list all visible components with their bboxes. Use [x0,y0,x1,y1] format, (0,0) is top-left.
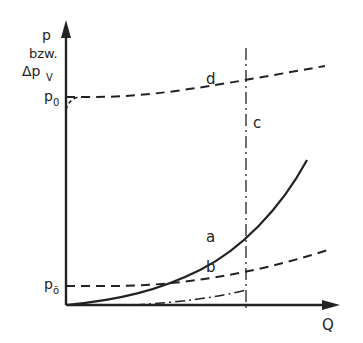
curve-label-a: a [206,228,215,246]
curve-dash-dot [135,290,246,305]
y-label-delta-pv: Δp [22,63,41,79]
curve-label-b: b [206,258,216,276]
x-axis-arrowhead [322,300,340,310]
curve-d [66,66,325,97]
x-label-q: Q [322,316,334,334]
level-upper-label: p [44,88,53,104]
y-label-bzw: bzw. [29,46,58,61]
pressure-flow-diagram: p bzw. Δp V p 0 p ö a b c d Q [0,0,363,343]
curve-d-start-hook [66,97,78,110]
curve-label-c: c [253,114,261,132]
level-lower-sub: ö [53,285,59,296]
level-upper-sub: 0 [53,97,59,108]
curve-label-d: d [206,70,216,88]
level-lower-label: p [44,276,53,292]
curve-a [66,160,307,305]
y-label-sub-v: V [46,72,53,83]
curve-b [66,250,328,286]
y-label-p: p [42,27,51,43]
y-axis-arrowhead [61,20,71,38]
